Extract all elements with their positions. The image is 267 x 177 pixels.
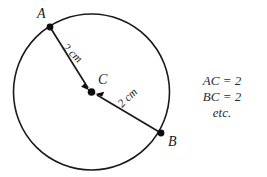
note-line-etc: etc. [213,105,231,120]
point-label-c: C [98,72,108,87]
point-label-b: B [168,134,177,149]
measure-label-ac: 2 cm [61,41,85,65]
point-dot-c [88,88,96,96]
point-label-a: A [36,6,46,21]
figure-root: A B C 2 cm 2 cm AC = 2 BC = 2 etc. [0,0,267,177]
note-line-ac: AC = 2 [202,73,242,88]
note-line-bc: BC = 2 [203,89,242,104]
circle-diagram: A B C 2 cm 2 cm AC = 2 BC = 2 etc. [0,0,267,177]
point-dot-b [158,130,165,137]
point-dot-a [47,24,54,31]
measure-label-bc: 2 cm [115,85,139,109]
